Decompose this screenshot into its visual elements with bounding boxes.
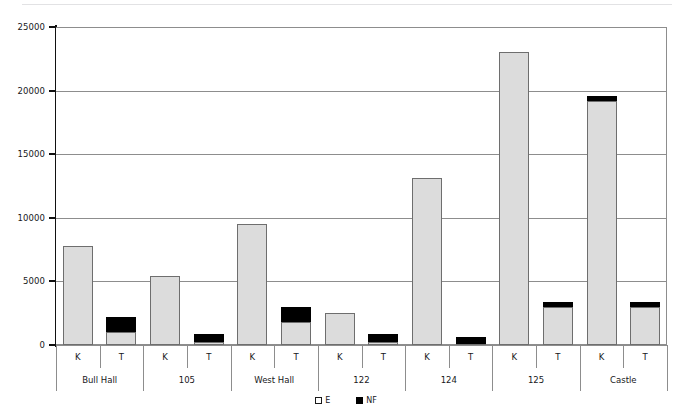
x-axis-group-label: 125: [492, 368, 579, 391]
x-axis-separator: [56, 345, 57, 391]
bar-105-k: [150, 276, 180, 345]
y-axis-tick-label: 10000: [17, 213, 45, 223]
x-axis-separator: [143, 345, 144, 391]
y-axis-tick-label: 5000: [23, 276, 45, 286]
bar-segment-e: [543, 307, 573, 345]
legend-label-nf: NF: [366, 396, 377, 405]
bar-segment-nf: [456, 337, 486, 343]
x-axis-separator: [449, 345, 450, 368]
x-axis-group-label: 124: [405, 368, 492, 391]
x-axis-subcategory-label: K: [580, 345, 624, 368]
x-axis-subcategory-label: T: [623, 345, 667, 368]
bar-castle-k: [587, 96, 617, 345]
bar-segment-e: [499, 52, 529, 345]
y-axis-tick-label: 0: [39, 340, 45, 350]
bar-segment-e: [412, 178, 442, 345]
bar-segment-nf: [281, 307, 311, 322]
bar-segment-e: [237, 224, 267, 345]
x-axis-subcategory-label: T: [100, 345, 144, 368]
bar-segment-e: [150, 276, 180, 345]
legend-swatch-nf-icon: [356, 397, 363, 404]
x-axis-group-label: West Hall: [231, 368, 318, 391]
y-axis-tick-mark: [49, 280, 56, 282]
chart-legend: E NF: [0, 391, 692, 409]
y-axis-tick-label: 15000: [17, 149, 45, 159]
bar-west-hall-k: [237, 224, 267, 345]
bar-segment-e: [587, 101, 617, 345]
y-axis-tick-label: 25000: [17, 22, 45, 32]
legend-item-nf: NF: [356, 396, 377, 405]
bar-segment-e: [325, 313, 355, 345]
x-axis-subcategory-label: T: [274, 345, 318, 368]
bar-105-t: [194, 334, 224, 345]
bar-segment-e: [281, 322, 311, 345]
x-axis-separator: [231, 345, 232, 391]
bar-125-k: [499, 52, 529, 345]
y-axis-tick-mark: [49, 26, 56, 28]
bar-124-k: [412, 178, 442, 345]
y-axis-tick-mark: [49, 90, 56, 92]
bar-124-t: [456, 337, 486, 345]
bar-castle-t: [630, 302, 660, 345]
bar-segment-e: [63, 246, 93, 345]
bar-122-k: [325, 313, 355, 345]
x-axis-separator: [362, 345, 363, 368]
x-axis-category-labels: KTKTKTKTKTKTKT Bull Hall105West Hall1221…: [56, 345, 667, 391]
bar-bull-hall-t: [106, 317, 136, 345]
x-axis-group-row: Bull Hall105West Hall122124125Castle: [56, 368, 667, 391]
x-axis-subcategory-label: K: [231, 345, 275, 368]
x-axis-separator: [492, 345, 493, 391]
bar-122-t: [368, 334, 398, 345]
bar-segment-nf: [630, 302, 660, 307]
bar-west-hall-t: [281, 307, 311, 345]
gridline: [56, 281, 667, 282]
gridline: [56, 91, 667, 92]
y-axis-tick-mark: [49, 153, 56, 155]
x-axis-separator: [405, 345, 406, 391]
top-divider-rule: [22, 4, 672, 5]
legend-label-e: E: [325, 396, 330, 405]
legend-item-e: E: [315, 396, 330, 405]
gridline: [56, 218, 667, 219]
bar-segment-nf: [587, 96, 617, 101]
bar-bull-hall-k: [63, 246, 93, 345]
gridline: [56, 154, 667, 155]
y-axis-tick-mark: [49, 344, 56, 346]
bar-segment-e: [630, 307, 660, 345]
x-axis-group-label: Bull Hall: [56, 368, 143, 391]
bar-segment-nf: [194, 334, 224, 343]
x-axis-band-top-border: [56, 345, 667, 346]
bar-125-t: [543, 302, 573, 345]
x-axis-subcategory-label: T: [536, 345, 580, 368]
bar-segment-nf: [368, 334, 398, 342]
legend-swatch-e-icon: [315, 397, 322, 404]
y-axis-tick-label: 20000: [17, 86, 45, 96]
x-axis-subcategory-label: T: [449, 345, 493, 368]
x-axis-separator: [580, 345, 581, 391]
bar-segment-e: [106, 332, 136, 345]
stacked-bar-chart: 2500020000150001000050000 KTKTKTKTKTKTKT…: [0, 0, 692, 414]
y-axis-labels: 2500020000150001000050000: [0, 27, 45, 345]
x-axis-separator: [100, 345, 101, 368]
gridline: [56, 27, 667, 28]
x-axis-separator: [274, 345, 275, 368]
x-axis-separator: [187, 345, 188, 368]
plot-frame: [56, 27, 667, 345]
x-axis-subcategory-label: K: [492, 345, 536, 368]
plot-area: [56, 27, 667, 345]
y-axis-tick-mark: [49, 217, 56, 219]
x-axis-subcategory-label: K: [318, 345, 362, 368]
x-axis-separator: [318, 345, 319, 391]
x-axis-subcategory-label: K: [405, 345, 449, 368]
x-axis-separator: [667, 345, 668, 391]
x-axis-group-label: 122: [318, 368, 405, 391]
bar-segment-nf: [543, 302, 573, 307]
x-axis-separator: [536, 345, 537, 368]
x-axis-subcategory-label: T: [362, 345, 406, 368]
x-axis-group-label: 105: [143, 368, 230, 391]
x-axis-separator: [623, 345, 624, 368]
x-axis-group-label: Castle: [580, 368, 667, 391]
x-axis-subcategory-label: K: [143, 345, 187, 368]
x-axis-subcategory-label: K: [56, 345, 100, 368]
bar-segment-nf: [106, 317, 136, 332]
